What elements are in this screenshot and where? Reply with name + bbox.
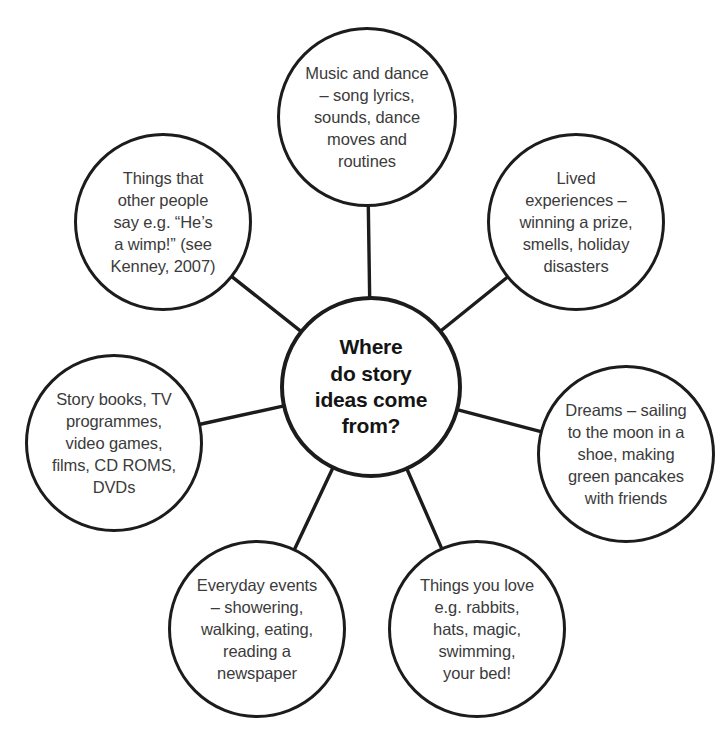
center-bubble-center: Where do story ideas come from? <box>280 296 462 478</box>
idea-bubble-label: Story books, TV programmes, video games,… <box>38 388 189 499</box>
idea-bubble-music-and-dance: Music and dance – song lyrics, sounds, d… <box>277 27 457 207</box>
idea-bubble-lived-experiences: Lived experiences – winning a prize, sme… <box>487 133 665 311</box>
idea-bubble-label: Lived experiences – winning a prize, sme… <box>500 167 651 278</box>
idea-bubble-label: Everyday events – showering, walking, ea… <box>181 574 332 685</box>
idea-bubble-things-you-love: Things you love e.g. rabbits, hats, magi… <box>388 540 566 718</box>
idea-bubble-label: Dreams – sailing to the moon in a shoe, … <box>550 399 701 510</box>
idea-bubble-label: Things that other people say e.g. “He’s … <box>87 167 238 278</box>
idea-bubble-everyday-events: Everyday events – showering, walking, ea… <box>168 540 346 718</box>
connector-line-things-other-people-say <box>231 276 301 332</box>
connector-line-everyday-events <box>294 468 333 551</box>
mind-map-diagram: Music and dance – song lyrics, sounds, d… <box>0 0 728 741</box>
idea-bubble-label: Music and dance – song lyrics, sounds, d… <box>290 62 443 173</box>
center-bubble-label: Where do story ideas come from? <box>294 334 447 440</box>
idea-bubble-things-other-people-say: Things that other people say e.g. “He’s … <box>74 133 252 311</box>
connector-line-story-books-tv <box>199 406 284 425</box>
idea-bubble-dreams: Dreams – sailing to the moon in a shoe, … <box>537 365 715 543</box>
connector-line-music-and-dance <box>368 205 369 298</box>
connector-line-dreams <box>457 410 542 432</box>
connector-line-lived-experiences <box>440 277 508 332</box>
idea-bubble-story-books-tv: Story books, TV programmes, video games,… <box>25 354 203 532</box>
connector-line-things-you-love <box>407 469 442 550</box>
idea-bubble-label: Things you love e.g. rabbits, hats, magi… <box>401 574 552 685</box>
